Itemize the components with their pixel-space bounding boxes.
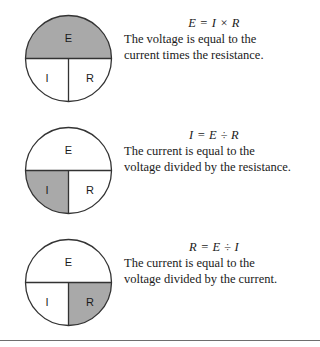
formula-current: I = E ÷ R bbox=[122, 128, 318, 143]
sentence-line: voltage divided by the resistance. bbox=[124, 160, 318, 176]
wheel-label-bottom-left: I bbox=[45, 72, 48, 84]
sentence-line: voltage divided by the current. bbox=[124, 272, 318, 288]
sentence-current: The current is equal to the voltage divi… bbox=[122, 144, 318, 175]
bottom-divider bbox=[0, 340, 320, 341]
ohms-law-wheel-I-highlighted: E I R bbox=[24, 126, 113, 215]
ohms-law-row-resistance: E I R R = E ÷ I The current is equal to … bbox=[0, 230, 320, 342]
ohms-law-text-resistance: R = E ÷ I The current is equal to the vo… bbox=[122, 240, 318, 287]
ohms-law-text-current: I = E ÷ R The current is equal to the vo… bbox=[122, 128, 318, 175]
sentence-line: The current is equal to the bbox=[124, 144, 318, 160]
sentence-resistance: The current is equal to the voltage divi… bbox=[122, 256, 318, 287]
sentence-line: The current is equal to the bbox=[124, 256, 318, 272]
ohms-law-wheel-E-highlighted: E I R bbox=[24, 14, 113, 103]
sentence-line: current times the resistance. bbox=[124, 48, 318, 64]
wheel-label-top: E bbox=[65, 144, 72, 156]
wheel-label-bottom-left: I bbox=[45, 296, 48, 308]
formula-voltage: E = I × R bbox=[122, 16, 318, 31]
ohms-law-row-voltage: E I R E = I × R The voltage is equal to … bbox=[0, 6, 320, 118]
ohms-law-figure: E I R E = I × R The voltage is equal to … bbox=[0, 0, 320, 347]
wheel-label-bottom-right: R bbox=[86, 72, 94, 84]
wheel-label-bottom-right: R bbox=[86, 184, 94, 196]
wheel-label-top: E bbox=[65, 32, 72, 44]
sentence-voltage: The voltage is equal to the current time… bbox=[122, 32, 318, 63]
formula-resistance: R = E ÷ I bbox=[122, 240, 318, 255]
ohms-law-wheel-R-highlighted: E I R bbox=[24, 238, 113, 327]
ohms-law-text-voltage: E = I × R The voltage is equal to the cu… bbox=[122, 16, 318, 63]
ohms-law-row-current: E I R I = E ÷ R The current is equal to … bbox=[0, 118, 320, 230]
wheel-label-bottom-right: R bbox=[86, 296, 94, 308]
sentence-line: The voltage is equal to the bbox=[124, 32, 318, 48]
wheel-label-bottom-left: I bbox=[45, 184, 48, 196]
wheel-label-top: E bbox=[65, 256, 72, 268]
